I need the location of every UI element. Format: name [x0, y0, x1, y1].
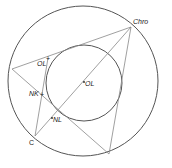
segment-chro-c [35, 27, 131, 136]
segment-left-bottom [12, 69, 109, 154]
segment-chro-bottom [109, 27, 131, 154]
marker-ol-tangent: + [46, 55, 50, 62]
label-ol-tangent: OL [37, 60, 46, 67]
label-nl: NL [53, 116, 62, 123]
label-chro: Chro [133, 18, 148, 25]
marker-nk: + [40, 91, 44, 98]
label-c: C [29, 139, 34, 146]
geometry-diagram: Chro + OL NK + OL NL C [0, 0, 172, 168]
inner-circle [46, 45, 122, 121]
label-ol-center: OL [85, 80, 94, 87]
segment-chro-left [12, 27, 131, 69]
label-nk: NK [29, 90, 39, 97]
